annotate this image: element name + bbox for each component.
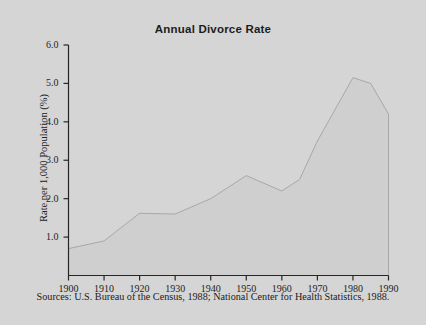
y-tick-label: 6.0	[29, 39, 59, 50]
y-tick-label: 1.0	[29, 231, 59, 242]
y-axis-ticks	[64, 45, 69, 237]
source-note: Sources: U.S. Bureau of the Census, 1988…	[0, 291, 426, 302]
divorce-rate-figure: Annual Divorce Rate Rate per 1,000 Popul…	[0, 0, 426, 325]
y-tick-label: 3.0	[29, 154, 59, 165]
area-series-fill	[69, 78, 389, 276]
y-tick-label: 4.0	[29, 116, 59, 127]
y-tick-label: 5.0	[29, 77, 59, 88]
y-tick-label: 2.0	[29, 193, 59, 204]
x-axis-ticks	[69, 276, 389, 281]
chart-plot-area	[0, 0, 426, 325]
